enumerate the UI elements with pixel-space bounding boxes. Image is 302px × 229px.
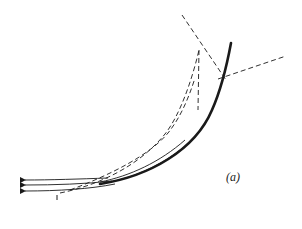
dashed-inner-1 bbox=[60, 50, 199, 193]
dashed-vertical bbox=[198, 50, 199, 110]
ray-diagram bbox=[0, 0, 302, 229]
dashed-lines bbox=[60, 15, 286, 193]
dashed-inner-2 bbox=[70, 78, 195, 190]
dashed-normal bbox=[182, 15, 226, 80]
panel-label: (a) bbox=[226, 170, 240, 185]
main-curve bbox=[100, 43, 231, 184]
